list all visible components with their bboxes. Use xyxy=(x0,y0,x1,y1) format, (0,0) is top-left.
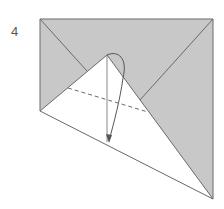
origami-diagram xyxy=(0,0,224,209)
